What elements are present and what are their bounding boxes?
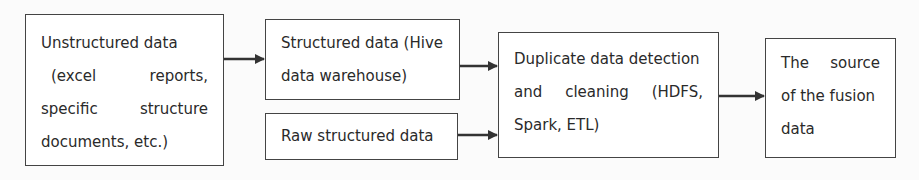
edges-layer [0,0,919,180]
